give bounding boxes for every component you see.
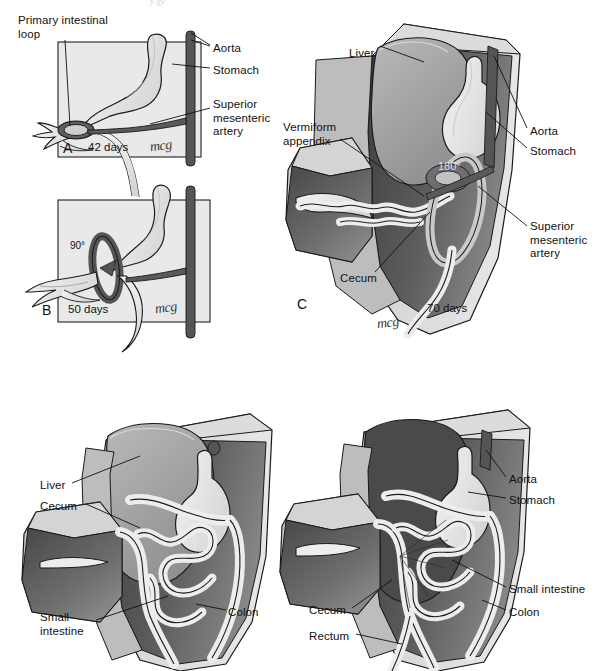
label-colon-d: Colon bbox=[228, 606, 259, 620]
rotation-angle-c: 180° bbox=[438, 160, 461, 172]
label-cecum-d: Cecum bbox=[40, 500, 77, 514]
signature-b: mcg bbox=[154, 299, 178, 318]
signature-c: mcg bbox=[376, 314, 400, 333]
rotation-angle-b: 90° bbox=[70, 240, 85, 251]
panel-letter-b: B bbox=[42, 302, 51, 318]
label-superior-mesenteric-artery-c: Superior mesenteric artery bbox=[530, 220, 587, 261]
label-small-intestine-e: Small intestine bbox=[509, 583, 585, 597]
panel-age-c: 70 days bbox=[427, 302, 467, 314]
panel-b-artwork bbox=[26, 185, 210, 352]
label-liver-c: Liver bbox=[349, 47, 374, 61]
label-liver-d: Liver bbox=[40, 479, 65, 493]
label-stomach-c: Stomach bbox=[530, 145, 576, 159]
label-primary-intestinal-loop: Primary intestinal loop bbox=[18, 14, 108, 41]
panel-c-artwork bbox=[286, 24, 527, 334]
label-aorta-c: Aorta bbox=[530, 125, 558, 139]
label-vermiform-appendix-c: Vermiform appendix bbox=[283, 121, 336, 148]
panel-letter-c: C bbox=[297, 296, 307, 312]
label-aorta-a: Aorta bbox=[213, 42, 241, 56]
figure-artwork bbox=[0, 0, 596, 671]
label-aorta-e: Aorta bbox=[509, 473, 537, 487]
label-small-intestine-d: Small intestine bbox=[40, 611, 84, 638]
top-crop-artifact: y gy bbox=[150, 0, 165, 6]
panel-age-b: 50 days bbox=[68, 303, 108, 315]
label-stomach-e: Stomach bbox=[509, 494, 555, 508]
label-cecum-c: Cecum bbox=[340, 272, 377, 286]
label-colon-e: Colon bbox=[509, 606, 540, 620]
label-superior-mesenteric-artery-a: Superior mesenteric artery bbox=[213, 98, 270, 139]
panel-a-artwork bbox=[33, 31, 210, 197]
label-cecum-e: Cecum bbox=[309, 604, 346, 618]
label-stomach-a: Stomach bbox=[213, 64, 259, 78]
signature-a: mcg bbox=[149, 137, 173, 156]
panel-letter-a: A bbox=[63, 140, 72, 156]
embryology-figure: y gy bbox=[0, 0, 596, 671]
panel-age-a: 42 days bbox=[88, 141, 128, 153]
label-rectum-e: Rectum bbox=[309, 630, 349, 644]
